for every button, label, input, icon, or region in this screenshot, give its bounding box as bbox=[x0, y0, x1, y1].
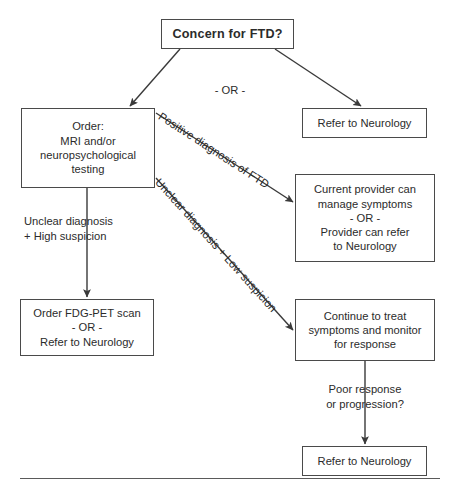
node-concern-for-ftd[interactable]: Concern for FTD? bbox=[161, 19, 294, 49]
node-current-provider[interactable]: Current provider can manage symptoms - O… bbox=[295, 174, 435, 262]
edge-label-poor-response: Poor response or progression? bbox=[302, 382, 428, 411]
node-order-workup[interactable]: Order: MRI and/or neuropsychological tes… bbox=[21, 108, 155, 188]
node-order-fdg-pet[interactable]: Order FDG-PET scan - OR - Refer to Neuro… bbox=[20, 299, 154, 356]
label-or-connector: - OR - bbox=[196, 83, 264, 98]
edge-concern-to-refer-top bbox=[275, 49, 361, 106]
node-refer-neurology-bottom[interactable]: Refer to Neurology bbox=[302, 446, 427, 476]
flowchart-canvas: Concern for FTD? - OR - Order: MRI and/o… bbox=[0, 0, 453, 492]
footer-divider bbox=[20, 478, 440, 479]
edge-label-unclear-high-suspicion: Unclear diagnosis + High suspicion bbox=[24, 214, 144, 243]
node-continue-to-treat[interactable]: Continue to treat symptoms and monitor f… bbox=[295, 299, 435, 361]
node-refer-neurology-top[interactable]: Refer to Neurology bbox=[302, 108, 427, 138]
edge-concern-to-order bbox=[130, 49, 180, 106]
